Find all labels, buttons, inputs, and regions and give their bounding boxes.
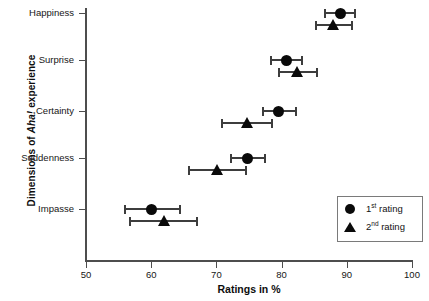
error-bar-cap (316, 68, 318, 77)
x-axis-tick (412, 262, 413, 268)
x-axis-tick-label-50: 50 (66, 269, 106, 280)
triangle-marker-icon (344, 219, 358, 235)
error-bar-cap (245, 166, 247, 175)
y-axis-tick (79, 111, 86, 112)
data-point-circle-surprise (281, 55, 292, 66)
data-point-circle-certainty (273, 106, 284, 117)
y-axis-title-tail: experience (26, 55, 37, 111)
error-bar-cap (221, 119, 223, 128)
x-axis-tick-label-90: 90 (327, 269, 367, 280)
error-bar-cap (179, 205, 181, 214)
error-bar-cap (278, 68, 280, 77)
error-bar-cap (188, 166, 190, 175)
x-axis-tick-label-70: 70 (196, 269, 236, 280)
chart-figure: Dimensions of Aha! experience HappinessS… (0, 0, 429, 301)
legend-tail-2: rating (379, 221, 405, 232)
y-axis-title-italic: Aha! (26, 111, 37, 134)
y-axis-line (85, 8, 87, 262)
legend-label-second-rating: 2nd rating (366, 221, 405, 233)
y-axis-tick-label-surprise: Surprise (39, 55, 74, 65)
y-axis-tick (79, 209, 86, 210)
legend-tail-1: rating (376, 203, 402, 214)
x-axis-tick-label-100: 100 (392, 269, 429, 280)
y-axis-tick-label-certainty: Certainty (36, 106, 74, 116)
error-bar-cap (270, 56, 272, 65)
data-point-circle-happiness (335, 8, 346, 19)
x-axis-tick (216, 262, 217, 268)
error-bar-cap (351, 21, 353, 30)
x-axis-title: Ratings in % (85, 283, 413, 295)
error-bar-cap (271, 119, 273, 128)
y-axis-tick (79, 60, 86, 61)
error-bar-cap (124, 205, 126, 214)
y-axis-tick-label-suddenness: Suddenness (21, 153, 74, 163)
x-axis-tick (282, 262, 283, 268)
data-point-triangle-surprise (291, 66, 303, 77)
x-axis-tick (86, 262, 87, 268)
y-axis-title: Dimensions of Aha! experience (26, 6, 37, 256)
data-point-triangle-happiness (327, 19, 339, 30)
data-point-triangle-suddenness (211, 164, 223, 175)
y-axis-tick (79, 13, 86, 14)
error-bar-cap (354, 9, 356, 18)
legend-ordinal-nd: nd (371, 220, 378, 227)
data-point-triangle-impasse (158, 215, 170, 226)
x-axis-tick-label-60: 60 (131, 269, 171, 280)
legend-item-first-rating: 1st rating (344, 201, 420, 217)
y-axis-tick-label-happiness: Happiness (29, 8, 74, 18)
legend-item-second-rating: 2nd rating (344, 219, 420, 235)
error-bar-cap (324, 9, 326, 18)
x-axis-line (85, 260, 413, 262)
chart-legend: 1st rating 2nd rating (337, 196, 423, 242)
x-axis-tick-label-80: 80 (262, 269, 302, 280)
error-bar-cap (196, 217, 198, 226)
error-bar-cap (295, 107, 297, 116)
error-bar-cap (230, 154, 232, 163)
error-bar-cap (129, 217, 131, 226)
x-axis-tick (151, 262, 152, 268)
y-axis-title-plain: Dimensions of (26, 133, 37, 206)
error-bar-cap (301, 56, 303, 65)
x-axis-tick (347, 262, 348, 268)
y-axis-tick (79, 158, 86, 159)
data-point-triangle-certainty (241, 117, 253, 128)
data-point-circle-suddenness (242, 153, 253, 164)
legend-label-first-rating: 1st rating (366, 203, 403, 215)
circle-marker-icon (344, 201, 358, 217)
error-bar-cap (315, 21, 317, 30)
data-point-circle-impasse (146, 204, 157, 215)
error-bar-cap (264, 154, 266, 163)
y-axis-tick-label-impasse: Impasse (38, 204, 74, 214)
error-bar-cap (262, 107, 264, 116)
